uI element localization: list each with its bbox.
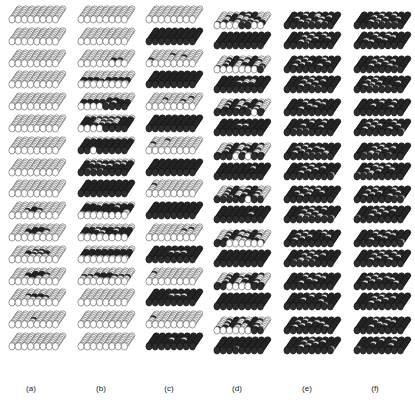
lattice-layer — [281, 159, 345, 181]
lattice-layer — [143, 242, 207, 264]
lattice-layer — [143, 329, 207, 351]
lattice-layer — [351, 333, 415, 355]
lattice-layer — [143, 89, 207, 111]
panel-label-d: (d) — [232, 384, 242, 393]
lattice-layer — [211, 182, 275, 204]
lattice-layer — [211, 226, 275, 248]
stack-column-d — [211, 0, 281, 360]
lattice-layer — [6, 307, 70, 329]
lattice-layer — [351, 52, 415, 74]
lattice-layer — [281, 269, 345, 291]
lattice-layer — [351, 246, 415, 268]
lattice-layer — [143, 220, 207, 242]
lattice-layer — [281, 333, 345, 355]
lattice-layer — [281, 182, 345, 204]
lattice-layer — [143, 155, 207, 177]
lattice-layer — [143, 264, 207, 286]
stack-column-e — [281, 0, 351, 360]
lattice-layer — [143, 2, 207, 24]
lattice-layer — [143, 198, 207, 220]
panel-label-a: (a) — [26, 384, 36, 393]
lattice-layer — [143, 67, 207, 89]
lattice-layer — [281, 289, 345, 311]
lattice-layer — [75, 242, 139, 264]
lattice-layer — [211, 159, 275, 181]
lattice-layer — [6, 329, 70, 351]
lattice-layer — [6, 198, 70, 220]
lattice-layer — [143, 46, 207, 68]
lattice-layer — [75, 89, 139, 111]
lattice-layer — [6, 242, 70, 264]
lattice-layer — [281, 72, 345, 94]
lattice-layer — [281, 246, 345, 268]
lattice-layer — [6, 155, 70, 177]
lattice-layer — [75, 2, 139, 24]
lattice-layer — [211, 313, 275, 335]
panel-label-c: (c) — [164, 384, 173, 393]
lattice-layer — [6, 264, 70, 286]
lattice-layer — [75, 176, 139, 198]
lattice-layer — [211, 289, 275, 311]
lattice-layer — [351, 226, 415, 248]
lattice-layer — [75, 285, 139, 307]
lattice-layer — [6, 133, 70, 155]
lattice-layer — [281, 8, 345, 30]
lattice-layer — [211, 72, 275, 94]
lattice-layer — [6, 220, 70, 242]
lattice-layer — [211, 246, 275, 268]
lattice-layer — [281, 313, 345, 335]
lattice-layer — [6, 24, 70, 46]
layered-lattice-figure: (a)(b)(c)(d)(e)(f) — [0, 0, 415, 405]
lattice-layer — [143, 176, 207, 198]
lattice-layer — [281, 115, 345, 137]
lattice-layer — [6, 89, 70, 111]
lattice-layer — [75, 24, 139, 46]
panel-label-b: (b) — [96, 384, 106, 393]
lattice-layer — [75, 155, 139, 177]
lattice-layer — [75, 220, 139, 242]
stack-column-a — [6, 0, 76, 360]
lattice-layer — [75, 307, 139, 329]
lattice-layer — [75, 133, 139, 155]
lattice-layer — [281, 202, 345, 224]
lattice-layer — [143, 133, 207, 155]
lattice-layer — [351, 269, 415, 291]
lattice-layer — [351, 289, 415, 311]
lattice-layer — [351, 313, 415, 335]
lattice-layer — [351, 159, 415, 181]
lattice-layer — [75, 264, 139, 286]
stack-column-c — [143, 0, 213, 360]
lattice-layer — [75, 46, 139, 68]
panel-label-e: (e) — [302, 384, 312, 393]
lattice-layer — [75, 329, 139, 351]
lattice-layer — [6, 176, 70, 198]
lattice-layer — [143, 285, 207, 307]
lattice-layer — [211, 28, 275, 50]
lattice-layer — [351, 115, 415, 137]
lattice-layer — [351, 8, 415, 30]
lattice-layer — [75, 67, 139, 89]
lattice-layer — [6, 2, 70, 24]
lattice-layer — [211, 202, 275, 224]
lattice-layer — [351, 202, 415, 224]
panel-label-f: (f) — [371, 384, 379, 393]
lattice-layer — [351, 72, 415, 94]
lattice-layer — [281, 95, 345, 117]
lattice-layer — [281, 139, 345, 161]
lattice-layer — [281, 226, 345, 248]
lattice-layer — [6, 46, 70, 68]
lattice-layer — [143, 111, 207, 133]
lattice-layer — [211, 333, 275, 355]
lattice-layer — [6, 67, 70, 89]
lattice-layer — [351, 139, 415, 161]
stack-column-b — [75, 0, 145, 360]
lattice-layer — [211, 139, 275, 161]
lattice-layer — [211, 269, 275, 291]
lattice-layer — [211, 8, 275, 30]
lattice-layer — [6, 111, 70, 133]
lattice-layer — [211, 52, 275, 74]
lattice-layer — [75, 111, 139, 133]
lattice-layer — [6, 285, 70, 307]
lattice-layer — [143, 307, 207, 329]
lattice-layer — [281, 52, 345, 74]
